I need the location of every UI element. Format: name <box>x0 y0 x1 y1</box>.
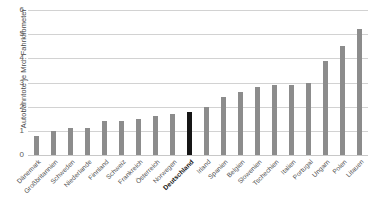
plot-area <box>28 10 368 155</box>
x-label-slot: Großbritannien <box>45 157 62 219</box>
bar-d-nemark[interactable] <box>34 136 39 155</box>
bar-slot <box>249 10 266 155</box>
bar-deutschland[interactable] <box>187 112 192 156</box>
x-label-slot: Italien <box>283 157 300 219</box>
x-label-slot: Frankreich <box>130 157 147 219</box>
bar-slot <box>79 10 96 155</box>
bar-tschechien[interactable] <box>272 85 277 155</box>
bar-slot <box>198 10 215 155</box>
bar-slot <box>334 10 351 155</box>
bar-slot <box>45 10 62 155</box>
x-label-slot: Spanien <box>215 157 232 219</box>
bar-slot <box>232 10 249 155</box>
bar-spanien[interactable] <box>221 97 226 155</box>
y-tick-label-0: 0 <box>20 150 24 159</box>
bar-belgien[interactable] <box>238 92 243 155</box>
x-label-slot: Tschechien <box>266 157 283 219</box>
x-label-slot: Portugal <box>300 157 317 219</box>
x-label-slot: Polen <box>334 157 351 219</box>
y-tick-label-4: 4 <box>20 53 24 62</box>
bar-finnland[interactable] <box>102 121 107 155</box>
bar-schweden[interactable] <box>68 128 73 155</box>
x-label-slot: Ungarn <box>317 157 334 219</box>
bar-irland[interactable] <box>204 107 209 155</box>
bar-litauen[interactable] <box>357 29 362 155</box>
gridline-0 <box>28 155 368 156</box>
y-tick-label-1: 1 <box>20 126 24 135</box>
bar-series <box>28 10 368 155</box>
x-label-slot: Irland <box>198 157 215 219</box>
bar-slot <box>266 10 283 155</box>
bar-gro-britannien[interactable] <box>51 131 56 155</box>
bar-schweiz[interactable] <box>119 121 124 155</box>
bar-slot <box>113 10 130 155</box>
bar-norwegen[interactable] <box>170 114 175 155</box>
x-label-slot: Slowenien <box>249 157 266 219</box>
bar-slot <box>300 10 317 155</box>
y-tick-label-2: 2 <box>20 102 24 111</box>
bar-niederlande[interactable] <box>85 128 90 155</box>
y-axis-tick-labels: 0123456 <box>8 10 24 155</box>
bar-slot <box>62 10 79 155</box>
x-label-slot: Niederlande <box>79 157 96 219</box>
bar-chart: Autobahntote je Mrd. Fahrkilometer 01234… <box>0 0 370 220</box>
bar-slot <box>317 10 334 155</box>
bar-polen[interactable] <box>340 46 345 155</box>
x-axis-category-labels: DänemarkGroßbritannienSchwedenNiederland… <box>28 157 368 219</box>
bar-ungarn[interactable] <box>323 61 328 155</box>
y-tick-label-5: 5 <box>20 29 24 38</box>
bar-slot <box>147 10 164 155</box>
bar-slot <box>130 10 147 155</box>
bar-slot <box>28 10 45 155</box>
y-tick-label-6: 6 <box>20 5 24 14</box>
bar-slot <box>351 10 368 155</box>
bar--sterreich[interactable] <box>153 116 158 155</box>
bar-portugal[interactable] <box>306 83 311 156</box>
x-label-slot: Finnland <box>96 157 113 219</box>
bar-frankreich[interactable] <box>136 119 141 155</box>
x-label-slot: Schweden <box>62 157 79 219</box>
bar-slot <box>164 10 181 155</box>
bar-slot <box>283 10 300 155</box>
bar-slowenien[interactable] <box>255 87 260 155</box>
x-label-slot: Schweiz <box>113 157 130 219</box>
bar-slot <box>181 10 198 155</box>
x-label-slot: Litauen <box>351 157 368 219</box>
x-label-slot: Belgien <box>232 157 249 219</box>
x-label-slot: Deutschland <box>181 157 198 219</box>
y-tick-label-3: 3 <box>20 78 24 87</box>
bar-italien[interactable] <box>289 85 294 155</box>
bar-slot <box>96 10 113 155</box>
bar-slot <box>215 10 232 155</box>
x-label-slot: Österreich <box>147 157 164 219</box>
